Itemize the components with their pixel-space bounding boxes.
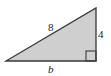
right-triangle-diagram: 8 4 b <box>0 0 111 76</box>
horizontal-leg-label: b <box>48 63 54 75</box>
triangle-shape <box>6 8 96 61</box>
vertical-leg-label: 4 <box>98 28 104 40</box>
hypotenuse-label: 8 <box>48 21 54 33</box>
